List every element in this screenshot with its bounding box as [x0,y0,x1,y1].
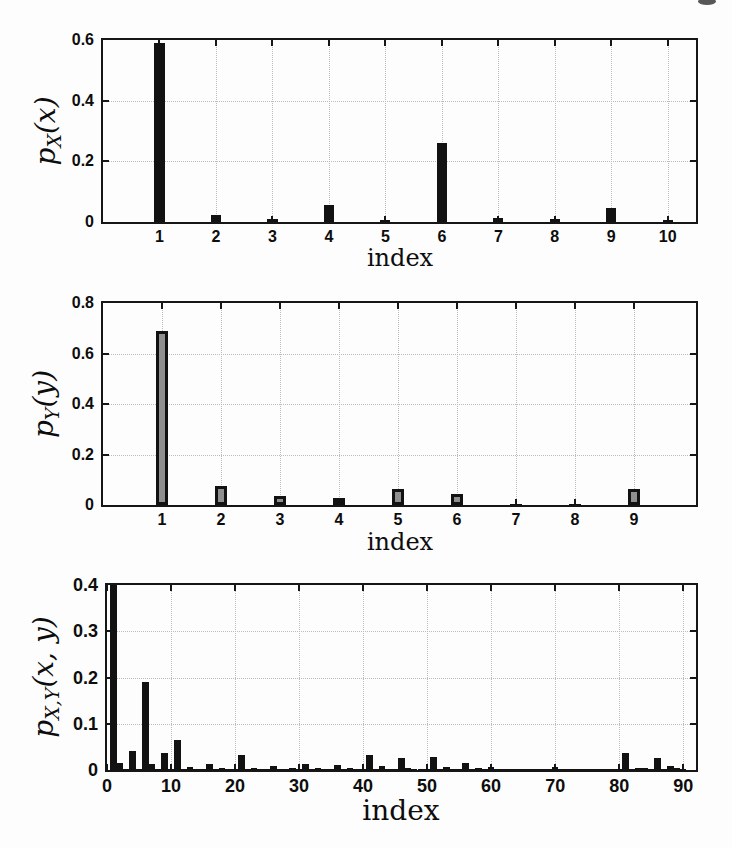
x-tick-label: 8 [550,228,559,246]
y-tick-label: 0.1 [73,713,98,734]
x-tick-label: 5 [394,511,403,529]
y-tick-label: 0 [88,760,98,781]
x-tick-label: 4 [335,511,344,529]
tick-mark [554,585,556,591]
bar-index-21 [238,755,244,770]
y-tick-label: 0.2 [72,152,94,170]
x-axis-label: index [362,794,439,827]
gridline-horizontal [107,724,696,725]
tick-mark [103,353,109,355]
x-tick-label: 30 [289,776,309,797]
bar-index-11 [174,740,180,770]
tick-mark [103,100,109,102]
tick-mark [220,303,222,309]
tick-mark [610,40,612,46]
gridline-vertical [611,40,612,222]
x-tick-label: 90 [673,776,693,797]
bar-index-6 [437,143,447,222]
bar-index-1 [156,331,168,505]
tick-mark [106,585,108,591]
x-tick-label: 1 [155,228,164,246]
bar-index-1 [154,43,164,222]
gridline-horizontal [103,455,696,456]
tick-mark [271,40,273,46]
bar-index-81 [622,753,628,770]
x-tick-label: 3 [276,511,285,529]
tick-mark [690,677,696,679]
plot-area-pmf-x: 1234567891000.20.40.6 [101,38,698,224]
bar-index-6 [142,682,148,770]
bar-index-7 [510,504,522,505]
x-tick-label: 4 [324,228,333,246]
tick-mark [633,303,635,309]
bar-index-4 [333,498,345,505]
x-axis-label: index [367,244,433,272]
gridline-vertical [329,40,330,222]
tick-mark [682,585,684,591]
gridline-vertical [555,40,556,222]
y-tick-label: 0 [85,496,94,514]
bar-index-2 [215,486,227,505]
tick-mark [574,303,576,309]
tick-mark [690,403,696,405]
y-tick-label: 0.6 [72,345,94,363]
bar-index-9 [606,208,616,222]
gridline-horizontal [107,678,696,679]
bar-index-3 [267,219,277,222]
bar-index-9 [161,753,167,770]
tick-mark [497,40,499,46]
x-tick-label: 6 [437,228,446,246]
x-tick-label: 80 [609,776,629,797]
y-tick-label: 0.4 [72,395,94,413]
tick-mark [279,303,281,309]
bar-index-8 [550,219,560,222]
tick-mark [690,100,696,102]
bar-index-10 [663,220,673,222]
tick-mark [338,303,340,309]
tick-mark [690,454,696,456]
y-axis-label: pY(y) [27,370,64,438]
x-tick-label: 1 [158,511,167,529]
tick-mark [215,40,217,46]
gridline-vertical [385,40,386,222]
tick-mark [103,403,109,405]
tick-mark [234,585,236,591]
gridline-horizontal [103,161,696,162]
y-axis-label-argument: (y) [27,370,60,408]
plot-area-pmf-xy: 010203040506070809000.10.20.30.4 [105,583,698,772]
x-tick-label: 70 [545,776,565,797]
bar-index-4 [129,751,135,770]
bar-index-90 [680,769,686,770]
y-axis-label: pX,Y(x, y) [27,616,64,737]
bar-index-5 [380,220,390,222]
x-tick-label: 7 [494,228,503,246]
gridline-horizontal [103,354,696,355]
tick-mark [441,40,443,46]
x-tick-label: 9 [630,511,639,529]
bar-index-6 [451,494,463,505]
tick-mark [426,585,428,591]
bar-index-4 [324,205,334,222]
y-tick-label: 0.2 [73,667,98,688]
bar-index-3 [274,496,286,505]
y-axis-label-base: p [27,420,60,438]
cropped-ink-mark [698,0,716,5]
tick-mark [490,585,492,591]
x-tick-label: 7 [512,511,521,529]
x-axis-label: index [367,528,433,556]
tick-mark [106,764,108,770]
y-tick-label: 0.6 [72,31,94,49]
gridline-horizontal [103,101,696,102]
tick-mark [103,160,109,162]
y-axis-label-base: p [27,720,60,738]
tick-mark [362,585,364,591]
tick-mark [690,630,696,632]
y-tick-label: 0.8 [72,294,94,312]
y-tick-label: 0 [85,213,94,231]
tick-mark [103,454,109,456]
tick-mark [690,353,696,355]
y-tick-label: 0.4 [72,92,94,110]
tick-mark [397,303,399,309]
gridline-horizontal [103,404,696,405]
tick-mark [328,40,330,46]
